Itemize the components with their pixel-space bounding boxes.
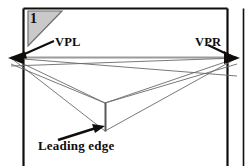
vanishing-point-right-label: VPR bbox=[195, 36, 221, 49]
figure-panel: 1 VPL VPR Leading edge bbox=[0, 0, 249, 166]
leading-edge-label: Leading edge bbox=[38, 139, 114, 152]
panel-number-label: 1 bbox=[30, 12, 37, 26]
vanishing-point-left-label: VPL bbox=[55, 36, 81, 49]
